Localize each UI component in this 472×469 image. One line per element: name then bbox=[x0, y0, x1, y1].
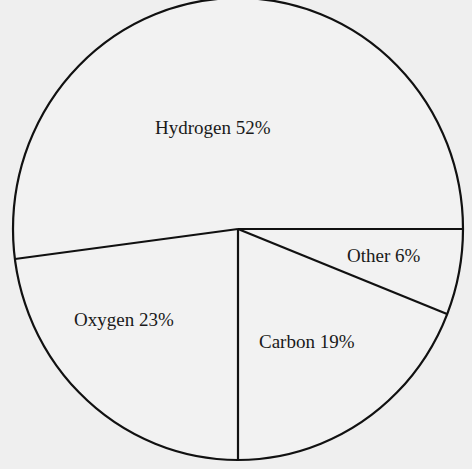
slice-label-hydrogen: Hydrogen 52% bbox=[155, 117, 271, 138]
pie-chart-svg: Hydrogen 52% Oxygen 23% Carbon 19% Other… bbox=[0, 0, 472, 469]
slice-label-other: Other 6% bbox=[347, 245, 421, 266]
pie-chart: Hydrogen 52% Oxygen 23% Carbon 19% Other… bbox=[0, 0, 472, 469]
slice-label-carbon: Carbon 19% bbox=[259, 331, 355, 352]
slice-label-oxygen: Oxygen 23% bbox=[74, 309, 174, 330]
